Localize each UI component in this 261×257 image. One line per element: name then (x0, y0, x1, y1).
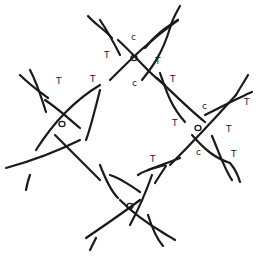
node-left-crossing (6, 70, 100, 190)
label-t: T (149, 154, 156, 164)
label-c: c (196, 147, 201, 157)
label-t: T (171, 118, 178, 128)
label-t: T (243, 97, 250, 107)
label-c: c (202, 101, 207, 111)
label-c: c (132, 78, 137, 88)
node-left-marker (59, 121, 65, 126)
label-t: T (154, 56, 161, 66)
labels: c T T c T T T c T T T c T T (55, 32, 250, 164)
label-t: T (230, 149, 237, 159)
node-top-crossing (88, 6, 180, 85)
label-t: T (89, 74, 96, 84)
label-t: T (55, 76, 62, 86)
label-t: T (225, 124, 232, 134)
label-t: T (103, 50, 110, 60)
label-t: T (169, 74, 176, 84)
label-c: c (131, 32, 136, 42)
node-right-marker (195, 125, 201, 130)
knot-diagram: c T T c T T T c T T T c T T (0, 0, 261, 257)
node-bottom-crossing (86, 165, 175, 250)
